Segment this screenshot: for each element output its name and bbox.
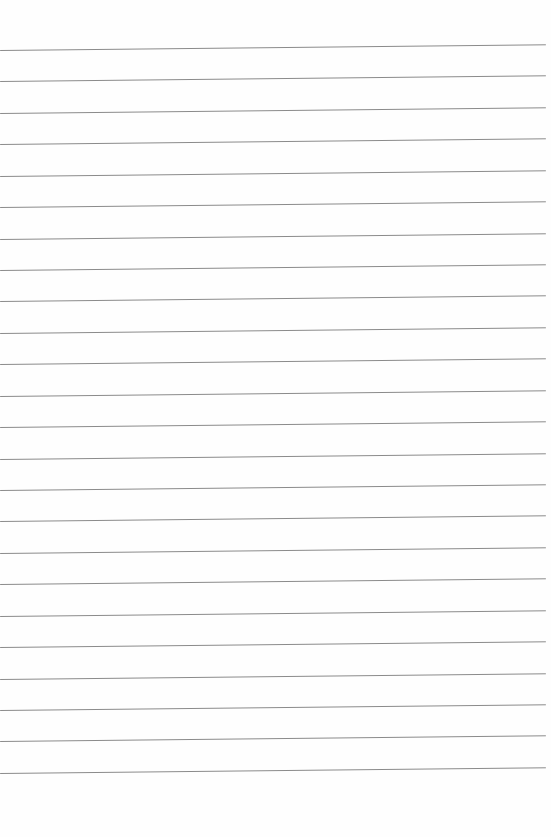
ruled-line [0, 516, 546, 523]
ruled-line [0, 359, 546, 366]
notebook-page [0, 0, 551, 837]
ruled-line [0, 736, 546, 743]
ruled-line [0, 673, 546, 680]
ruled-line [0, 579, 546, 586]
ruled-line [0, 390, 546, 397]
ruled-line [0, 767, 546, 774]
ruled-line [0, 296, 546, 303]
ruled-line [0, 44, 546, 51]
ruled-line [0, 484, 546, 491]
ruled-line [0, 610, 546, 617]
ruled-line [0, 201, 546, 208]
ruled-line [0, 641, 546, 648]
ruled-line [0, 107, 546, 114]
ruled-line [0, 76, 546, 83]
ruled-line [0, 170, 546, 177]
ruled-line [0, 264, 546, 271]
ruled-line [0, 139, 546, 146]
ruled-line [0, 704, 546, 711]
ruled-line [0, 233, 546, 240]
ruled-line [0, 421, 546, 428]
ruled-line [0, 327, 546, 334]
ruled-line [0, 547, 546, 554]
ruled-line [0, 453, 546, 460]
ruled-lines [0, 0, 551, 837]
